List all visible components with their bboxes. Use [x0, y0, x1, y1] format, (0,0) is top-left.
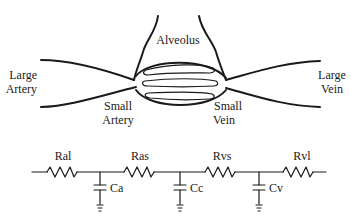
resistor-rvl — [283, 167, 313, 177]
large-artery-label-line1: Large — [9, 68, 37, 82]
resistor-ras-label: Ras — [131, 149, 149, 163]
capacitor-ca — [94, 172, 106, 211]
alveolus-label: Alveolus — [156, 33, 200, 47]
resistor-ral — [47, 167, 77, 177]
resistor-rvs — [205, 167, 235, 177]
capacitor-ca-label: Ca — [110, 181, 124, 195]
small-artery-label-line2: Artery — [102, 113, 133, 127]
anatomy-drawing — [41, 16, 320, 107]
capillary-2 — [143, 79, 218, 87]
capacitor-cv-label: Cv — [269, 181, 283, 195]
ground-icon — [97, 205, 103, 211]
artery-upper-wall — [41, 60, 134, 80]
small-vein-label-line2: Vein — [213, 113, 235, 127]
capacitor-cc — [174, 172, 186, 211]
ground-icon — [256, 205, 262, 211]
small-artery-label-line1: Small — [104, 99, 133, 113]
capillary-3 — [145, 92, 214, 100]
large-vein-label-line1: Large — [318, 68, 346, 82]
capacitor-cv — [253, 172, 265, 211]
resistor-rvs-label: Rvs — [213, 149, 232, 163]
alveolus-wall-right — [199, 16, 226, 80]
pulmonary-circulation-diagram: Alveolus Large Artery Small Artery Small… — [0, 0, 351, 224]
ground-icon — [177, 205, 183, 211]
large-vein-label-line2: Vein — [321, 82, 343, 96]
resistor-rvl-label: Rvl — [293, 149, 311, 163]
vein-upper-wall — [226, 61, 320, 80]
capacitor-cc-label: Cc — [190, 181, 203, 195]
resistor-ral-label: Ral — [55, 149, 72, 163]
resistor-ras — [124, 167, 154, 177]
small-vein-label-line1: Small — [214, 99, 243, 113]
large-artery-label-line2: Artery — [6, 82, 37, 96]
